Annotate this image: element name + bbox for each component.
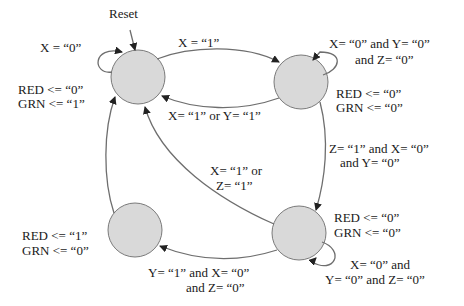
- transition-s2-to-s0-label-2: Z= “1”: [216, 178, 253, 193]
- state-s2: [272, 206, 326, 260]
- reset-label: Reset: [109, 6, 138, 21]
- state-s0-output-grn: GRN <= “1”: [18, 96, 85, 111]
- transition-s1-self-label-2: and Z= “0”: [355, 52, 414, 67]
- state-s0-output-red: RED <= “0”: [18, 82, 83, 97]
- edge-s0-to-s1: [157, 49, 279, 62]
- transition-s0-to-s1-label: X = “1”: [178, 35, 219, 50]
- state-s2-output-grn: GRN <= “0”: [334, 225, 401, 240]
- state-s3-output-grn: GRN <= “0”: [22, 243, 89, 258]
- transition-s0-self-label: X = “0”: [40, 40, 81, 55]
- state-s1: [274, 55, 328, 109]
- state-s3-output-red: RED <= “1”: [22, 228, 87, 243]
- transition-s1-self-label-1: X= “0” and Y= “0”: [329, 36, 430, 51]
- transition-s1-to-s0-label: X= “1” or Y= “1”: [168, 108, 261, 123]
- transition-s1-to-s2-label-2: and Y= “0”: [340, 155, 400, 170]
- state-s2-output-red: RED <= “0”: [334, 210, 399, 225]
- transition-s2-to-s3-label-1: Y= “1” and X= “0”: [148, 265, 249, 280]
- edge-s1-to-s0: [162, 96, 279, 108]
- edge-s1-to-s2: [316, 102, 326, 210]
- transition-s1-to-s2-label-1: Z= “1” and X= “0”: [329, 141, 429, 156]
- transition-s2-to-s3-label-2: and Z= “0”: [186, 280, 245, 295]
- transition-s2-to-s0-label-1: X= “1” or: [210, 163, 262, 178]
- transition-s2-self-label-1: X= “0” and: [350, 257, 410, 272]
- edge-s3-to-s0: [106, 97, 115, 213]
- transition-s2-self-label-2: Y= “0” and Z= “0”: [325, 272, 425, 287]
- state-s3: [108, 203, 162, 257]
- edge-s2-to-s3: [160, 246, 277, 259]
- state-s0: [111, 50, 165, 104]
- reset-arrow: [130, 30, 135, 50]
- state-s1-output-red: RED <= “0”: [336, 86, 401, 101]
- state-s1-output-grn: GRN <= “0”: [336, 100, 403, 115]
